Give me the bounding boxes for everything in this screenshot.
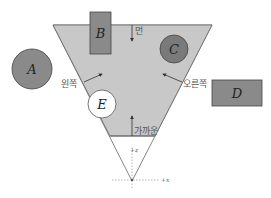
camera-origin <box>131 179 133 181</box>
object-d: D <box>212 80 262 106</box>
object-b: B <box>90 12 111 54</box>
object-a-label: A <box>26 62 36 77</box>
left-plane-label: 왼쪽 <box>61 79 77 89</box>
object-d-label: D <box>231 86 243 101</box>
object-e-label: E <box>96 97 107 112</box>
x-axis-label: +x <box>161 176 170 183</box>
right-plane-label: 오른쪽 <box>183 79 207 89</box>
far-plane-label: 먼 <box>135 26 143 36</box>
frustum-diagram: A B C D E 먼 왼쪽 오른쪽 가까운 +z +x <box>0 0 271 198</box>
object-a: A <box>12 49 52 89</box>
object-c-label: C <box>169 42 179 57</box>
object-b-label: B <box>95 26 106 41</box>
z-axis-label: +z <box>130 146 139 153</box>
object-c: C <box>160 35 188 63</box>
near-plane-label: 가까운 <box>134 126 158 136</box>
object-e: E <box>88 90 116 118</box>
